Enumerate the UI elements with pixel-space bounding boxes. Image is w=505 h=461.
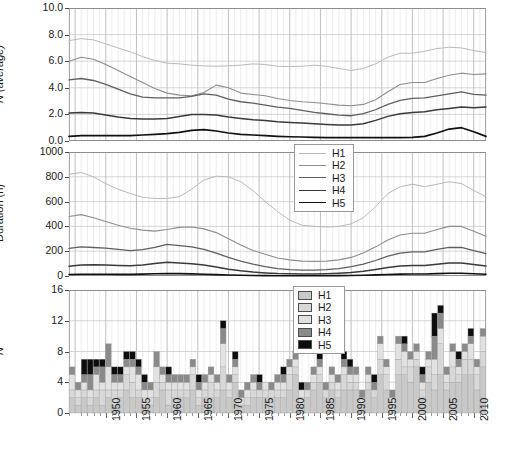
xtick-mark-minor — [216, 413, 217, 416]
xtick-label-1965: 1965 — [203, 398, 214, 421]
ytick-mark — [65, 88, 69, 89]
legend-swatch-h5 — [299, 202, 326, 203]
legend-row-bar-h3: H3 — [294, 314, 344, 326]
xtick-mark-minor — [308, 413, 309, 416]
ytick-mark — [65, 141, 69, 142]
xtick-mark-minor — [81, 413, 82, 416]
ytick-mark — [65, 276, 69, 277]
xtick-mark-minor — [363, 413, 364, 416]
legend-swatch-bar-h1 — [298, 291, 312, 300]
ytick-mark — [65, 177, 69, 178]
ytick-mark — [65, 35, 69, 36]
xtick-label-2005: 2005 — [448, 398, 459, 421]
legend-row-h3: H3 — [295, 172, 353, 184]
xtick-label-1975: 1975 — [264, 398, 275, 421]
ytick-mark — [65, 152, 69, 153]
ytick-label-middle-1: 200 — [3, 245, 63, 256]
legend-row-h2: H2 — [295, 159, 353, 171]
plot-area-top — [69, 8, 486, 141]
xtick-mark — [106, 413, 107, 418]
xtick-label-1960: 1960 — [172, 398, 183, 421]
xtick-label-2000: 2000 — [417, 398, 428, 421]
xtick-label-1950: 1950 — [111, 398, 122, 421]
ytick-label-middle-5: 1000 — [3, 146, 63, 157]
xtick-mark-minor — [247, 413, 248, 416]
xtick-label-1995: 1995 — [387, 398, 398, 421]
xtick-mark-minor — [327, 413, 328, 416]
xtick-mark-minor — [186, 413, 187, 416]
xtick-mark-minor — [314, 413, 315, 416]
legend-swatch-bar-h4 — [298, 328, 312, 337]
xtick-mark-minor — [241, 413, 242, 416]
ytick-mark — [65, 352, 69, 353]
legend-swatch-h2 — [299, 165, 326, 166]
legend-label-bar-h5: H5 — [318, 340, 331, 351]
xtick-mark-minor — [278, 413, 279, 416]
xtick-mark-minor — [461, 413, 462, 416]
xtick-mark-minor — [179, 413, 180, 416]
legend-row-h5: H5 — [295, 197, 353, 209]
ytick-mark — [65, 114, 69, 115]
legend-label-bar-h2: H2 — [318, 302, 331, 313]
ytick-label-middle-2: 400 — [3, 220, 63, 231]
xtick-mark-minor — [339, 413, 340, 416]
xtick-mark — [198, 413, 199, 418]
ytick-label-middle-4: 800 — [3, 171, 63, 182]
xtick-mark-minor — [69, 413, 70, 416]
xtick-label-1970: 1970 — [233, 398, 244, 421]
xtick-mark-minor — [222, 413, 223, 416]
xtick-mark-minor — [143, 413, 144, 416]
xtick-mark-minor — [425, 413, 426, 416]
xtick-mark — [412, 413, 413, 418]
legend-row-bar-h5: H5 — [294, 339, 344, 351]
xtick-mark-minor — [406, 413, 407, 416]
xtick-mark-minor — [204, 413, 205, 416]
legend-row-h4: H4 — [295, 184, 353, 196]
xtick-mark — [290, 413, 291, 418]
ytick-mark — [65, 290, 69, 291]
xtick-mark-minor — [400, 413, 401, 416]
legend-row-bar-h2: H2 — [294, 301, 344, 313]
plot-area-middle — [69, 152, 486, 276]
ytick-label-top-5: 10.0 — [3, 2, 63, 13]
xtick-mark-minor — [357, 413, 358, 416]
xtick-mark-minor — [112, 413, 113, 416]
xtick-mark-minor — [296, 413, 297, 416]
xtick-mark — [228, 413, 229, 418]
line-legend: H1H2H3H4H5 — [294, 144, 354, 212]
legend-swatch-bar-h2 — [298, 303, 312, 312]
xtick-mark-minor — [149, 413, 150, 416]
xtick-mark-minor — [388, 413, 389, 416]
xtick-mark-minor — [345, 413, 346, 416]
xtick-mark-minor — [161, 413, 162, 416]
legend-label-h2: H2 — [332, 160, 345, 171]
legend-label-bar-h3: H3 — [318, 315, 331, 326]
xtick-mark-minor — [130, 413, 131, 416]
xtick-mark-minor — [468, 413, 469, 416]
legend-swatch-bar-h3 — [298, 315, 312, 324]
ytick-mark — [65, 251, 69, 252]
legend-label-h3: H3 — [332, 173, 345, 184]
xtick-mark-minor — [284, 413, 285, 416]
xtick-mark-minor — [118, 413, 119, 416]
xtick-mark-minor — [235, 413, 236, 416]
xtick-mark — [351, 413, 352, 418]
axis-label-bottom: N — [0, 291, 5, 411]
ytick-label-top-0: 0.0 — [3, 135, 63, 146]
legend-swatch-h3 — [299, 177, 326, 178]
xtick-mark-minor — [376, 413, 377, 416]
xtick-mark-minor — [124, 413, 125, 416]
plot-area-bottom — [69, 290, 486, 413]
ytick-label-bottom-3: 12 — [3, 315, 63, 326]
xtick-label-1955: 1955 — [141, 398, 152, 421]
xtick-mark-minor — [455, 413, 456, 416]
figure-root: 0.02.04.06.08.010.0N (average)0200400600… — [0, 0, 505, 461]
xtick-mark — [382, 413, 383, 418]
xtick-mark-minor — [480, 413, 481, 416]
legend-label-bar-h4: H4 — [318, 327, 331, 338]
ytick-label-top-1: 2.0 — [3, 108, 63, 119]
ytick-mark — [65, 202, 69, 203]
ytick-label-top-2: 4.0 — [3, 82, 63, 93]
ytick-mark — [65, 61, 69, 62]
ytick-mark — [65, 321, 69, 322]
